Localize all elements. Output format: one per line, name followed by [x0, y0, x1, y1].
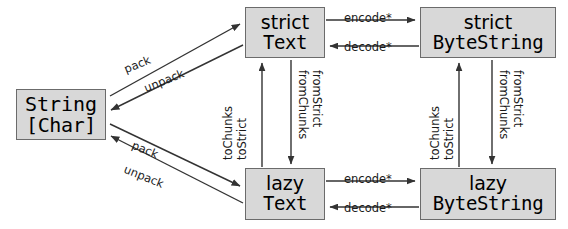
- node-lazy-text: lazy Text: [245, 168, 325, 220]
- edge-label-group-text-upward: toChunks toStrict: [221, 70, 249, 160]
- edge-label-fromchunks-bytestring: fromChunks: [497, 70, 511, 160]
- edge-label-encode-lazy: encode*: [344, 172, 392, 186]
- edge-label-fromstrict-bytestring: fromStrict: [511, 70, 525, 160]
- node-strict-bytestring-line2: ByteString: [433, 33, 543, 53]
- edge-label-fromchunks-text: fromChunks: [296, 70, 310, 160]
- node-lazy-text-line2: Text: [263, 194, 307, 214]
- node-strict-text-line1: strict: [261, 13, 309, 33]
- node-lazy-text-line1: lazy: [266, 174, 304, 194]
- node-lazy-bytestring-line2: ByteString: [433, 194, 543, 214]
- edge-label-group-bytestring-downward: fromChunks fromStrict: [497, 70, 525, 160]
- node-strict-bytestring-line1: strict: [464, 13, 512, 33]
- conversion-diagram: String [Char] strict Text strict ByteStr…: [0, 0, 568, 229]
- node-lazy-bytestring-line1: lazy: [469, 174, 507, 194]
- edge-label-fromstrict-text: fromStrict: [310, 70, 324, 160]
- node-string: String [Char]: [16, 89, 106, 140]
- node-strict-text-line2: Text: [263, 33, 307, 53]
- edge-label-tochunks-bytestring: toChunks: [428, 70, 442, 160]
- edge-label-group-bytestring-upward: toChunks toStrict: [428, 70, 456, 160]
- edge-label-encode-strict: encode*: [344, 11, 392, 25]
- node-lazy-bytestring: lazy ByteString: [420, 168, 556, 220]
- edge-label-decode-lazy: decode*: [344, 201, 392, 215]
- node-string-line1: String: [25, 94, 97, 115]
- edge-label-tochunks-text: toChunks: [221, 70, 235, 160]
- edge-label-tostrict-text: toStrict: [235, 70, 249, 160]
- node-strict-text: strict Text: [245, 7, 325, 58]
- node-strict-bytestring: strict ByteString: [420, 7, 556, 58]
- edge-label-decode-strict: decode*: [344, 40, 392, 54]
- edge-label-tostrict-bytestring: toStrict: [442, 70, 456, 160]
- node-string-line2: [Char]: [26, 115, 96, 136]
- edge-label-group-text-downward: fromChunks fromStrict: [296, 70, 324, 160]
